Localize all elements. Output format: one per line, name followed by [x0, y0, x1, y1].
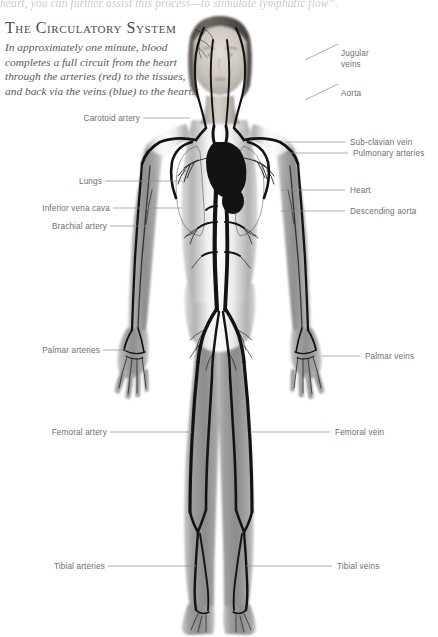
label-carotoid-artery: Carotoid artery — [0, 113, 140, 124]
label-femoral-vein: Femoral vein — [335, 427, 384, 438]
body-silhouette — [114, 16, 325, 635]
label-palmar-veins: Palmar veins — [365, 351, 414, 362]
label-palmar-arteries: Palmar arteries — [0, 345, 100, 356]
label-brachial-artery: Brachial artery — [0, 221, 107, 232]
page-canvas: heart, you can further assist this proce… — [0, 0, 438, 637]
label-descending-aorta: Descending aorta — [350, 206, 417, 217]
label-jugular-veins-line1: Jugular — [341, 48, 369, 59]
leader-aorta — [305, 84, 338, 100]
label-tibial-veins: Tibial veins — [337, 561, 379, 572]
label-jugular-veins-line2: veins — [341, 59, 369, 70]
label-sub-clavian-vein: Sub-clavian vein — [350, 137, 412, 148]
label-lungs: Lungs — [0, 176, 102, 187]
label-heart: Heart — [350, 185, 371, 196]
label-pulmonary-arteries: Pulmonary arteries — [353, 148, 424, 159]
label-femoral-artery: Femoral artery — [0, 427, 107, 438]
leader-jugular-veins — [305, 44, 338, 60]
label-aorta: Aorta — [341, 88, 361, 99]
circulatory-system-figure — [0, 0, 438, 637]
label-jugular-veins: Jugular veins — [341, 48, 369, 70]
descending-aorta — [215, 190, 217, 310]
label-tibial-arteries: Tibial arteries — [0, 561, 105, 572]
label-inferior-vena-cava: Inferior vena cava — [0, 203, 110, 214]
